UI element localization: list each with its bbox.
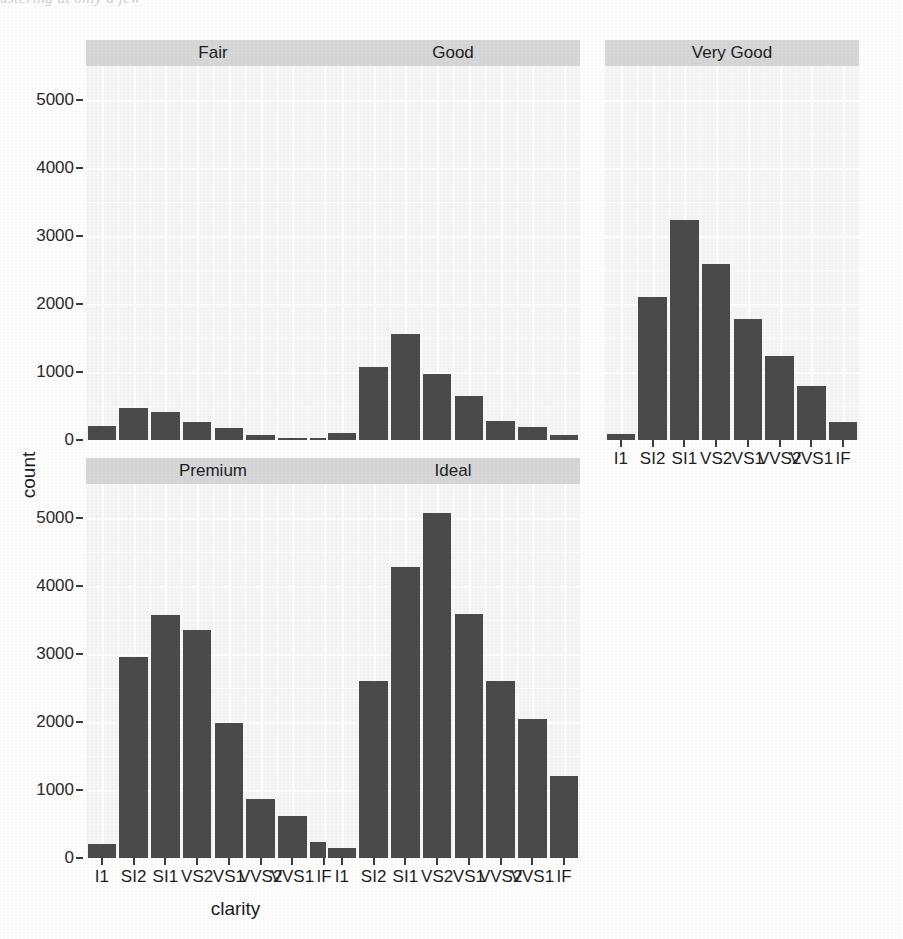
bar: [550, 435, 579, 440]
bar: [119, 657, 148, 858]
y-axis-tick-label: 4000: [36, 158, 74, 178]
bar: [797, 386, 826, 440]
bar: [518, 719, 547, 858]
x-axis-title-label: clarity: [211, 898, 261, 920]
x-axis-tick-mark: [260, 858, 262, 865]
y-axis-tick-label: 0: [65, 848, 74, 868]
scan-artifact-label: ustering at only a few: [0, 0, 141, 7]
facet-panel-very-good: Very GoodI1SI2SI1VS2VS1VVS2VVS1IF: [605, 40, 859, 440]
bar: [734, 319, 763, 440]
bar: [328, 848, 357, 858]
bar: [215, 428, 244, 440]
x-axis-tick-label: IF: [557, 867, 572, 887]
bar: [391, 567, 420, 858]
x-axis-tick-mark: [341, 858, 343, 865]
x-axis-tick-mark: [436, 858, 438, 865]
x-axis-tick-mark: [842, 440, 844, 447]
x-axis-tick-mark: [101, 858, 103, 865]
bar: [423, 374, 452, 441]
facet-panel-good: Good: [326, 40, 580, 440]
bar: [88, 426, 117, 440]
x-axis-tick-label: VS2: [421, 867, 453, 887]
bar: [702, 264, 731, 440]
bar: [215, 723, 244, 858]
bar-series: [86, 66, 340, 440]
facet-strip-label: Very Good: [605, 40, 859, 66]
x-axis-tick-mark: [563, 858, 565, 865]
x-axis-tick-label: SI1: [153, 867, 179, 887]
bar: [246, 799, 275, 858]
x-axis-tick-label: SI2: [121, 867, 147, 887]
y-axis-tick-label: 2000: [36, 294, 74, 314]
x-axis-tick-mark: [652, 440, 654, 447]
bar: [423, 513, 452, 858]
bar: [455, 614, 484, 858]
x-axis-tick-mark: [683, 440, 685, 447]
plot-area: [86, 66, 340, 440]
y-axis-tick-label: 5000: [36, 508, 74, 528]
bar: [119, 408, 148, 440]
bar: [328, 433, 357, 440]
bar: [391, 334, 420, 440]
y-axis-tick-label: 3000: [36, 644, 74, 664]
plot-area: [86, 484, 340, 858]
bar: [183, 422, 212, 440]
x-axis-tick-mark: [620, 440, 622, 447]
x-axis-tick-mark: [196, 858, 198, 865]
bar-series: [605, 66, 859, 440]
bar: [486, 421, 515, 440]
bar-series: [326, 66, 580, 440]
facet-strip-label: Ideal: [326, 458, 580, 484]
bar: [670, 220, 699, 440]
plot-area: [326, 66, 580, 440]
x-axis-tick-label: I1: [95, 867, 109, 887]
x-axis-tick-mark: [810, 440, 812, 447]
facet-row-top: 010002000300040005000FairGoodVery GoodI1…: [0, 40, 903, 440]
y-axis-tick-label: 5000: [36, 90, 74, 110]
y-axis-tick-label: 3000: [36, 226, 74, 246]
scan-artifact-text: ustering at only a few: [0, 0, 903, 18]
facet-panel-fair: Fair: [86, 40, 340, 440]
plot-area: [605, 66, 859, 440]
facet-panel-premium: PremiumI1SI2SI1VS2VS1VVS2VVS1IF: [86, 458, 340, 858]
x-axis-tick-mark: [779, 440, 781, 447]
x-axis-tick-label: SI2: [361, 867, 387, 887]
bar: [183, 630, 212, 858]
facet-panel-ideal: IdealI1SI2SI1VS2VS1VVS2VVS1IF: [326, 458, 580, 858]
x-axis-tick-label: VS2: [181, 867, 213, 887]
y-axis-tick-label: 0: [65, 430, 74, 450]
x-axis-tick-mark: [715, 440, 717, 447]
facet-strip-label: Fair: [86, 40, 340, 66]
bar: [550, 776, 579, 858]
y-axis-tick-label: 1000: [36, 362, 74, 382]
bar: [151, 615, 180, 858]
bar: [486, 681, 515, 858]
x-axis-tick-mark: [228, 858, 230, 865]
x-axis-tick-mark: [531, 858, 533, 865]
bar: [246, 435, 275, 440]
facet-strip-label: Premium: [86, 458, 340, 484]
bar: [278, 438, 307, 440]
x-axis-tick-mark: [373, 858, 375, 865]
bar: [151, 412, 180, 440]
x-axis-tick-label: VVS1: [511, 867, 554, 887]
x-axis-tick-mark: [291, 858, 293, 865]
x-axis: I1SI2SI1VS2VS1VVS2VVS1IF: [326, 858, 580, 896]
y-axis-tick-label: 4000: [36, 576, 74, 596]
y-axis-tick-label: 2000: [36, 712, 74, 732]
bar-series: [86, 484, 340, 858]
y-axis-tick-column: 010002000300040005000: [0, 458, 84, 858]
bar: [455, 396, 484, 440]
x-axis-tick-mark: [404, 858, 406, 865]
x-axis-tick-label: I1: [335, 867, 349, 887]
bar: [278, 816, 307, 858]
bar: [359, 681, 388, 858]
y-axis-tick-label: 1000: [36, 780, 74, 800]
facet-strip-label: Good: [326, 40, 580, 66]
x-axis-tick-mark: [133, 858, 135, 865]
bar: [765, 356, 794, 440]
x-axis: I1SI2SI1VS2VS1VVS2VVS1IF: [86, 858, 340, 896]
x-axis-tick-mark: [164, 858, 166, 865]
bar: [518, 427, 547, 440]
x-axis-title: clarity: [76, 898, 903, 920]
